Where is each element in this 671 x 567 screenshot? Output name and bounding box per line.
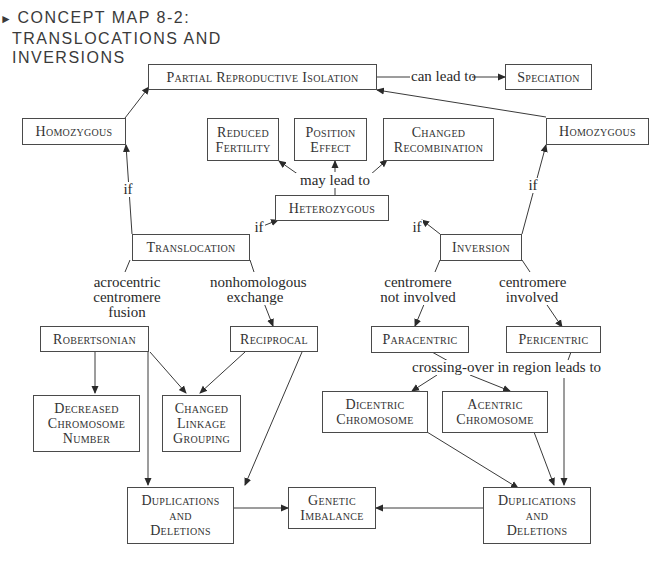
label-text: if [527, 178, 539, 193]
node-text: Acentric [467, 397, 522, 412]
node-text: Deletions [507, 523, 568, 538]
node-text: Effect [310, 140, 350, 155]
label-text: exchange [210, 290, 300, 305]
node-changed-linkage-grouping: ChangedLinkageGrouping [162, 395, 241, 452]
node-text: Homozygous [35, 124, 112, 139]
node-text: and [526, 508, 549, 523]
node-translocation: Translocation [132, 234, 250, 261]
label-text: if [253, 220, 265, 235]
node-text: Deletions [150, 523, 211, 538]
label-text: if [411, 220, 423, 235]
label-if-translocation-heterozygous: if [253, 220, 265, 235]
node-text: Changed [412, 125, 466, 140]
node-dicentric-chromosome: DicentricChromosome [322, 391, 428, 433]
label-if-homozygous-left: if [122, 182, 134, 197]
node-text: Reciprocal [240, 332, 308, 347]
node-partial-reproductive-isolation: Partial Reproductive Isolation [148, 64, 377, 90]
label-text: involved [499, 290, 565, 305]
node-text: Duplications [141, 493, 219, 508]
node-reciprocal: Reciprocal [230, 326, 318, 352]
label-acrocentric-centromere-fusion: acrocentriccentromerefusion [84, 275, 170, 320]
label-if-inversion-heterozygous: if [411, 220, 423, 235]
node-text: Chromosome [48, 416, 125, 431]
node-changed-recombination: ChangedRecombination [383, 118, 494, 161]
node-text: Inversion [452, 240, 510, 255]
label-text: acrocentric [84, 275, 170, 290]
label-centromere-not-involved: centromerenot involved [380, 275, 456, 305]
node-text: Robertsonian [53, 332, 136, 347]
node-text: Homozygous [559, 124, 636, 139]
node-text: Duplications [498, 493, 576, 508]
node-pericentric: Pericentric [506, 326, 601, 353]
label-nonhomologous-exchange: nonhomologousexchange [210, 275, 300, 305]
node-text: Changed [175, 401, 229, 416]
label-text: centromere [380, 275, 456, 290]
node-text: Grouping [173, 431, 230, 446]
label-can-lead-to: can lead to [411, 69, 472, 84]
node-text: Translocation [146, 240, 235, 255]
node-text: Heterozygous [289, 201, 375, 216]
label-text: crossing-over in region leads to [412, 360, 576, 375]
node-duplications-deletions-right: DuplicationsandDeletions [483, 487, 591, 544]
label-crossing-over-leads-to: crossing-over in region leads to [412, 360, 576, 375]
node-text: Reduced [217, 125, 269, 140]
node-heterozygous: Heterozygous [275, 195, 389, 221]
node-text: Chromosome [456, 412, 533, 427]
node-speciation: Speciation [505, 64, 592, 90]
node-text: Chromosome [336, 412, 413, 427]
node-text: Speciation [517, 70, 579, 85]
node-duplications-deletions-left: DuplicationsandDeletions [127, 487, 234, 544]
node-text: Pericentric [519, 332, 589, 347]
node-text: Decreased [54, 401, 118, 416]
label-text: may lead to [296, 173, 374, 188]
label-may-lead-to: may lead to [296, 173, 374, 188]
label-text: centromere [84, 290, 170, 305]
node-text: Fertility [216, 140, 271, 155]
label-text: if [122, 182, 134, 197]
node-text: Imbalance [300, 508, 363, 523]
label-text: nonhomologous [210, 275, 300, 290]
node-text: Linkage [177, 416, 226, 431]
node-robertsonian: Robertsonian [40, 326, 149, 352]
label-text: can lead to [411, 69, 472, 84]
node-homozygous-left: Homozygous [22, 118, 126, 145]
label-text: fusion [84, 305, 170, 320]
label-centromere-involved: centromereinvolved [499, 275, 565, 305]
node-paracentric: Paracentric [371, 326, 469, 353]
node-reduced-fertility: ReducedFertility [207, 118, 279, 161]
node-text: Partial Reproductive Isolation [166, 70, 358, 85]
node-acentric-chromosome: AcentricChromosome [442, 391, 548, 433]
node-text: Position [305, 125, 355, 140]
label-text: centromere [499, 275, 565, 290]
node-position-effect: PositionEffect [294, 118, 367, 161]
node-text: Number [63, 431, 110, 446]
node-text: Paracentric [383, 332, 458, 347]
node-text: Genetic [308, 493, 356, 508]
label-if-homozygous-right: if [527, 178, 539, 193]
node-decreased-chromosome-number: DecreasedChromosomeNumber [33, 395, 140, 452]
node-homozygous-right: Homozygous [546, 118, 649, 145]
label-text: not involved [380, 290, 456, 305]
node-text: Dicentric [346, 397, 405, 412]
node-text: and [169, 508, 192, 523]
node-inversion: Inversion [440, 234, 522, 261]
node-text: Recombination [394, 140, 483, 155]
node-genetic-imbalance: GeneticImbalance [288, 487, 376, 529]
